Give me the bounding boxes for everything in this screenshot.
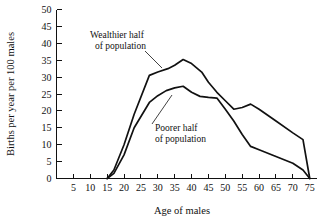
x-axis-title: Age of males [154,205,210,216]
series-line-poorer [107,86,310,178]
x-tick-label: 20 [119,182,129,193]
y-tick-label: 30 [42,72,52,83]
x-tick-label: 40 [187,182,197,193]
annotation-wealthier-leader-line [145,51,162,68]
annotation-wealthier: Wealthier half of population [90,30,162,68]
y-axis-title: Births per year per 100 males [5,32,16,156]
y-tick-label: 35 [42,55,52,66]
series-line-wealthier [107,60,310,179]
y-tick-label: 5 [47,156,52,167]
x-tick-label: 25 [136,182,146,193]
y-tick-marks [57,10,62,179]
annotation-poorer-line2: of population [155,134,206,144]
x-tick-label: 60 [254,182,264,193]
x-tick-label: 55 [237,182,247,193]
y-tick-label: 25 [42,89,52,100]
annotation-poorer: Poorer half of population [152,95,206,144]
chart-container: 51015202530354045505560657075 0510152025… [0,0,326,219]
x-tick-label: 45 [203,182,213,193]
y-tick-label: 50 [42,4,52,15]
y-tick-label: 40 [42,38,52,49]
y-tick-label: 0 [47,173,52,184]
x-tick-label: 10 [85,182,95,193]
x-tick-label: 70 [288,182,298,193]
x-tick-label: 15 [102,182,112,193]
y-tick-label: 10 [42,139,52,150]
y-tick-label: 45 [42,21,52,32]
annotation-wealthier-line1: Wealthier half [90,30,145,40]
x-tick-label: 30 [153,182,163,193]
x-axis-tick-labels: 51015202530354045505560657075 [71,182,315,193]
x-tick-label: 75 [305,182,315,193]
y-axis-tick-labels: 05101520253035404550 [42,4,52,184]
x-tick-label: 65 [271,182,281,193]
annotation-wealthier-line2: of population [95,41,146,51]
x-tick-label: 5 [71,182,76,193]
series-lines [107,60,310,179]
y-tick-label: 15 [42,122,52,133]
x-tick-label: 35 [170,182,180,193]
births-by-age-line-chart: 51015202530354045505560657075 0510152025… [0,0,326,219]
y-tick-label: 20 [42,105,52,116]
annotation-poorer-line1: Poorer half [155,123,198,133]
annotation-poorer-leader-line [152,95,172,124]
x-tick-label: 50 [220,182,230,193]
